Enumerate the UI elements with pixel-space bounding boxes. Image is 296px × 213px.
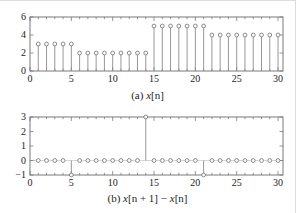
stem-marker	[268, 159, 272, 163]
stem-marker	[185, 159, 189, 163]
y-axis-tick-label: 2	[21, 126, 26, 137]
stem-marker	[53, 159, 57, 163]
stem-marker	[260, 159, 264, 163]
stem-marker	[169, 159, 173, 163]
y-axis-tick-label: 6	[21, 11, 26, 22]
stem-marker	[210, 159, 214, 163]
stem-marker	[243, 159, 247, 163]
y-axis-tick-label: 1	[21, 140, 26, 151]
stem-marker	[86, 159, 90, 163]
stem-marker	[103, 159, 107, 163]
stem-plot-x-n: 0510152025300246	[0, 9, 296, 89]
panel-b-difference: 051015202530−10123 (b) x[n + 1] − x[n]	[0, 107, 295, 211]
caption-a-prefix: (a)	[131, 89, 143, 101]
caption-a: (a) x[n]	[0, 89, 295, 101]
x-axis-tick-label: 25	[232, 177, 242, 188]
stem-marker	[45, 159, 49, 163]
stem-marker	[61, 159, 65, 163]
x-axis-tick-label: 15	[149, 177, 159, 188]
stem-marker	[127, 159, 131, 163]
x-axis-tick-label: 20	[190, 73, 200, 84]
stem-marker	[276, 159, 280, 163]
stem-marker	[103, 51, 107, 55]
stem-marker	[202, 173, 206, 177]
stem-marker	[193, 24, 197, 28]
caption-b: (b) x[n + 1] − x[n]	[0, 192, 295, 204]
stem-marker	[78, 51, 82, 55]
stem-marker	[111, 159, 115, 163]
x-axis-tick-label: 0	[28, 177, 33, 188]
x-axis-tick-label: 20	[190, 177, 200, 188]
stem-marker	[94, 159, 98, 163]
y-axis-tick-label: 2	[21, 47, 26, 58]
x-axis-tick-label: 10	[108, 73, 118, 84]
stem-marker	[235, 159, 239, 163]
panel-a-signal: 0510152025300246 (a) x[n]	[0, 9, 295, 107]
stem-marker	[185, 24, 189, 28]
stem-marker	[94, 51, 98, 55]
stem-marker	[53, 42, 57, 46]
stem-marker	[119, 51, 123, 55]
stem-marker	[169, 24, 173, 28]
y-axis-tick-label: 4	[21, 29, 26, 40]
caption-b-index-2: [n]	[175, 192, 188, 204]
y-axis-tick-label: 0	[21, 65, 26, 76]
stem-marker	[144, 115, 148, 119]
stem-marker	[127, 51, 131, 55]
stem-marker	[193, 159, 197, 163]
stem-marker	[210, 33, 214, 37]
stem-marker	[86, 51, 90, 55]
stem-marker	[235, 33, 239, 37]
y-axis-tick-label: 0	[21, 155, 26, 166]
x-axis-tick-label: 30	[273, 73, 283, 84]
stem-marker	[45, 42, 49, 46]
stem-marker	[36, 42, 40, 46]
stem-marker	[136, 159, 140, 163]
stem-marker	[260, 33, 264, 37]
x-axis-tick-label: 10	[108, 177, 118, 188]
stem-plot-difference: 051015202530−10123	[0, 107, 296, 192]
caption-b-index-1: [n + 1]	[128, 192, 158, 204]
stem-marker	[136, 51, 140, 55]
caption-b-minus: −	[161, 192, 167, 204]
stem-marker	[69, 173, 73, 177]
stem-marker	[243, 33, 247, 37]
stem-marker	[144, 51, 148, 55]
caption-b-prefix: (b)	[108, 192, 121, 204]
stem-marker	[152, 159, 156, 163]
stem-marker	[218, 159, 222, 163]
stem-marker	[227, 159, 231, 163]
stem-marker	[177, 159, 181, 163]
stem-marker	[119, 159, 123, 163]
x-axis-tick-label: 25	[232, 73, 242, 84]
stem-marker	[160, 24, 164, 28]
x-axis-tick-label: 5	[69, 73, 74, 84]
stem-marker	[202, 24, 206, 28]
caption-a-index: [n]	[151, 89, 164, 101]
stem-marker	[36, 159, 40, 163]
stem-marker	[111, 51, 115, 55]
x-axis-tick-label: 15	[149, 73, 159, 84]
stem-marker	[218, 33, 222, 37]
stem-marker	[177, 24, 181, 28]
figure-page: 0510152025300246 (a) x[n] 051015202530−1…	[0, 0, 296, 213]
y-axis-tick-label: 3	[21, 111, 26, 122]
stem-marker	[152, 24, 156, 28]
stem-marker	[78, 159, 82, 163]
y-axis-tick-label: −1	[15, 169, 26, 180]
x-axis-tick-label: 0	[28, 73, 33, 84]
stem-marker	[276, 33, 280, 37]
stem-marker	[251, 33, 255, 37]
stem-marker	[251, 159, 255, 163]
stem-marker	[69, 42, 73, 46]
stem-marker	[268, 33, 272, 37]
stem-marker	[160, 159, 164, 163]
x-axis-tick-label: 5	[69, 177, 74, 188]
stem-marker	[227, 33, 231, 37]
x-axis-tick-label: 30	[273, 177, 283, 188]
stem-marker	[61, 42, 65, 46]
